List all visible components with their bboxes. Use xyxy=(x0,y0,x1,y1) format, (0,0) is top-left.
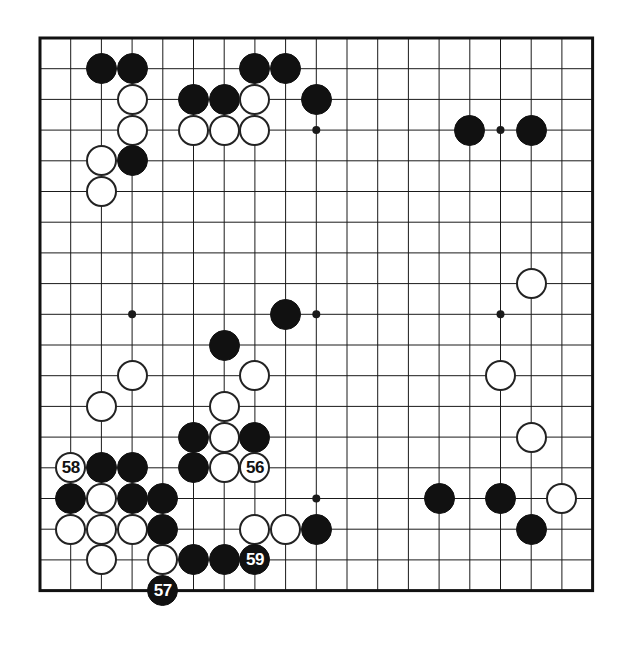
stone-black[interactable] xyxy=(516,115,547,146)
stone-white[interactable] xyxy=(178,115,209,146)
move-stone-59[interactable]: 59 xyxy=(239,544,270,575)
stone-black[interactable] xyxy=(485,483,516,514)
stone-black[interactable] xyxy=(209,330,240,361)
stone-black[interactable] xyxy=(209,544,240,575)
stone-white[interactable] xyxy=(516,268,547,299)
stone-white[interactable] xyxy=(209,452,240,483)
move-number-label: 59 xyxy=(240,545,269,574)
stone-white[interactable] xyxy=(86,483,117,514)
stone-white[interactable] xyxy=(209,115,240,146)
star-point-icon xyxy=(312,310,320,318)
stone-black[interactable] xyxy=(516,514,547,545)
stone-white[interactable] xyxy=(86,176,117,207)
stone-white[interactable] xyxy=(516,422,547,453)
move-number-label: 56 xyxy=(241,454,268,481)
stone-black[interactable] xyxy=(117,483,148,514)
stone-white[interactable] xyxy=(209,422,240,453)
move-stone-57[interactable]: 57 xyxy=(147,575,178,606)
move-stone-56[interactable]: 56 xyxy=(239,452,270,483)
stone-black[interactable] xyxy=(301,84,332,115)
stone-white[interactable] xyxy=(117,115,148,146)
stone-white[interactable] xyxy=(86,514,117,545)
stone-black[interactable] xyxy=(178,422,209,453)
stone-black[interactable] xyxy=(209,84,240,115)
star-point-icon xyxy=(312,126,320,134)
stone-black[interactable] xyxy=(117,145,148,176)
stone-black[interactable] xyxy=(86,53,117,84)
go-diagram: 58565957 xyxy=(0,0,631,650)
stone-white[interactable] xyxy=(239,115,270,146)
stone-black[interactable] xyxy=(147,514,178,545)
stone-black[interactable] xyxy=(454,115,485,146)
stone-black[interactable] xyxy=(239,422,270,453)
stone-black[interactable] xyxy=(178,84,209,115)
stone-white[interactable] xyxy=(239,514,270,545)
stone-white[interactable] xyxy=(485,360,516,391)
stone-black[interactable] xyxy=(55,483,86,514)
stone-white[interactable] xyxy=(117,84,148,115)
stone-black[interactable] xyxy=(301,514,332,545)
stone-black[interactable] xyxy=(117,452,148,483)
star-point-icon xyxy=(312,495,320,503)
star-point-icon xyxy=(497,310,505,318)
stone-white[interactable] xyxy=(55,514,86,545)
stone-black[interactable] xyxy=(270,299,301,330)
stone-white[interactable] xyxy=(86,391,117,422)
move-number-label: 58 xyxy=(57,454,84,481)
stone-white[interactable] xyxy=(270,514,301,545)
stone-black[interactable] xyxy=(424,483,455,514)
stone-black[interactable] xyxy=(86,452,117,483)
stone-white[interactable] xyxy=(209,391,240,422)
star-point-icon xyxy=(128,310,136,318)
move-stone-58[interactable]: 58 xyxy=(55,452,86,483)
star-point-icon xyxy=(497,126,505,134)
stone-white[interactable] xyxy=(86,145,117,176)
stone-black[interactable] xyxy=(117,53,148,84)
stone-white[interactable] xyxy=(117,360,148,391)
move-number-label: 57 xyxy=(148,576,177,605)
stone-white[interactable] xyxy=(117,514,148,545)
